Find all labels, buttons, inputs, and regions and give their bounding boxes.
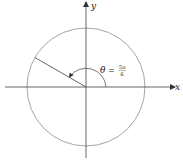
y-axis-label: y	[90, 1, 97, 11]
equals-sign: =	[108, 66, 115, 75]
unit-circle-diagram: x y θ = 5π 6	[0, 0, 183, 160]
theta-symbol: θ	[100, 65, 106, 75]
angle-denominator: 6	[121, 71, 124, 77]
angle-numerator: 5π	[119, 64, 126, 70]
x-axis-label: x	[175, 82, 180, 92]
terminal-side	[35, 58, 86, 88]
